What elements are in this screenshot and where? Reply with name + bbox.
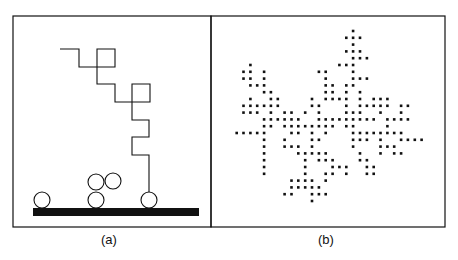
lattice-dot (318, 193, 321, 196)
lattice-dot (249, 64, 252, 67)
lattice-dot (393, 152, 396, 155)
lattice-dot (324, 84, 327, 87)
lattice-dot (366, 166, 369, 169)
panel-b-frame (211, 16, 445, 227)
lattice-dot (304, 125, 307, 128)
lattice-dot (277, 118, 280, 121)
particle-circle (34, 192, 50, 208)
lattice-dot (359, 37, 362, 40)
lattice-dot (366, 57, 369, 60)
deposited-particles (34, 173, 157, 208)
lattice-dot (263, 71, 266, 74)
lattice-dot (379, 98, 382, 101)
caption-a: (a) (101, 232, 117, 247)
lattice-dot (393, 118, 396, 121)
lattice-dot (324, 77, 327, 80)
lattice-dot (372, 166, 375, 169)
lattice-dot (359, 132, 362, 135)
lattice-dot (311, 145, 314, 148)
lattice-dot (242, 132, 245, 135)
lattice-dot (249, 98, 252, 101)
lattice-dot (366, 173, 369, 176)
lattice-dot (283, 111, 286, 114)
lattice-dot (311, 200, 314, 203)
lattice-dot (249, 71, 252, 74)
lattice-dot (263, 152, 266, 155)
lattice-dot (283, 193, 286, 196)
panel-b-lattice-cluster (211, 16, 445, 227)
lattice-dot (331, 159, 334, 162)
lattice-dot (400, 118, 403, 121)
lattice-dot (318, 125, 321, 128)
lattice-dot (379, 132, 382, 135)
lattice-dot (366, 105, 369, 108)
lattice-dot (263, 118, 266, 121)
lattice-dot (283, 145, 286, 148)
lattice-dot (324, 179, 327, 182)
lattice-dot (297, 179, 300, 182)
lattice-dot (263, 173, 266, 176)
random-walk-path (60, 49, 150, 192)
lattice-dot (420, 139, 423, 142)
lattice-dot (359, 105, 362, 108)
lattice-dot (297, 152, 300, 155)
lattice-dot (331, 118, 334, 121)
lattice-dot (331, 173, 334, 176)
lattice-dot (242, 77, 245, 80)
lattice-dot (324, 98, 327, 101)
lattice-dot (359, 159, 362, 162)
lattice-dot (366, 132, 369, 135)
lattice-dot (304, 111, 307, 114)
lattice-dot (297, 125, 300, 128)
lattice-dot (277, 105, 280, 108)
lattice-dot (311, 132, 314, 135)
lattice-dot (359, 91, 362, 94)
lattice-dot (270, 98, 273, 101)
lattice-dot (324, 71, 327, 74)
lattice-dot (352, 145, 355, 148)
lattice-dot (311, 139, 314, 142)
lattice-dot (407, 139, 410, 142)
lattice-dot (256, 84, 259, 87)
lattice-dot (366, 159, 369, 162)
lattice-dot (366, 118, 369, 121)
lattice-dot (386, 98, 389, 101)
lattice-dot (352, 64, 355, 67)
lattice-dot (379, 111, 382, 114)
lattice-dot (318, 159, 321, 162)
lattice-dot (256, 105, 259, 108)
lattice-dot (414, 139, 417, 142)
particle-circle (105, 173, 121, 189)
lattice-dot (263, 145, 266, 148)
panel-a-random-walk-deposition (13, 16, 211, 227)
lattice-dot (324, 152, 327, 155)
lattice-dot (359, 111, 362, 114)
lattice-dot (352, 118, 355, 121)
lattice-dot (304, 152, 307, 155)
lattice-dot (345, 64, 348, 67)
lattice-dot (400, 139, 403, 142)
lattice-dot (311, 179, 314, 182)
lattice-dot (283, 125, 286, 128)
lattice-dot (324, 173, 327, 176)
lattice-dot (352, 132, 355, 135)
lattice-dot (249, 111, 252, 114)
lattice-dot (324, 132, 327, 135)
lattice-dot (311, 186, 314, 189)
lattice-dot (331, 98, 334, 101)
lattice-dot (338, 166, 341, 169)
lattice-dot (379, 145, 382, 148)
lattice-dot (311, 193, 314, 196)
lattice-dot (318, 71, 321, 74)
lattice-dot (290, 125, 293, 128)
lattice-dot (290, 118, 293, 121)
lattice-dot (345, 98, 348, 101)
lattice-dot (331, 84, 334, 87)
lattice-dot (263, 125, 266, 128)
lattice-dot (311, 152, 314, 155)
lattice-dot (379, 139, 382, 142)
lattice-dot (290, 193, 293, 196)
lattice-dot (324, 91, 327, 94)
lattice-dot (352, 77, 355, 80)
lattice-dot (270, 118, 273, 121)
